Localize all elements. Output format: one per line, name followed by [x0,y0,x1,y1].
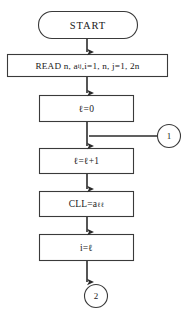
node-read-shape [8,55,168,77]
node-connector-out-shape [85,285,108,308]
flowchart-canvas: START READ n, aij,i=1, n, j=1, 2n ℓ=0 ℓ=… [0,0,193,319]
node-assign-cll-shape [40,192,134,217]
node-start-shape [39,12,138,39]
node-init-l-shape [40,96,134,122]
node-connector-in-shape [158,125,181,148]
flowchart-shapes [0,0,193,319]
node-assign-i-shape [40,235,134,261]
node-increment-l-shape [40,149,134,174]
